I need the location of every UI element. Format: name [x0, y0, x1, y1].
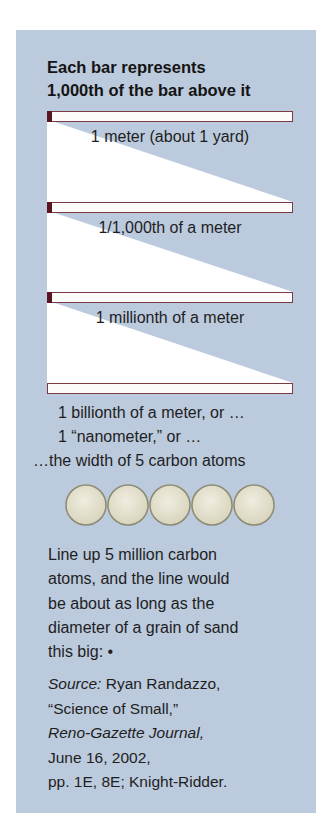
carbon-atom-icon — [108, 485, 148, 525]
nanometer-line-2: 1 “nanometer,” or … — [58, 427, 201, 447]
nanometer-line-3: …the width of 5 carbon atoms — [33, 451, 246, 471]
paragraph-line: diameter of a grain of sand — [48, 616, 308, 640]
bar-1 — [47, 111, 293, 122]
bar-2-label: 1/1,000th of a meter — [47, 218, 293, 238]
bar-3 — [47, 292, 293, 303]
source-publication: Reno-Gazette Journal, — [48, 721, 308, 746]
source-pages: pp. 1E, 8E; Knight-Ridder. — [48, 770, 308, 795]
bar-1-label: 1 meter (about 1 yard) — [47, 127, 293, 147]
carbon-atom-icon — [66, 485, 106, 525]
paragraph-line: atoms, and the line would — [48, 567, 308, 591]
carbon-atom-icon — [234, 485, 274, 525]
bar-2 — [47, 202, 293, 213]
bar-marker — [47, 202, 52, 213]
paragraph-line: this big: • — [48, 640, 308, 664]
source-author: Ryan Randazzo, — [101, 675, 220, 692]
carbon-atom-icon — [150, 485, 190, 525]
bar-marker — [47, 292, 52, 303]
paragraph-line: be about as long as the — [48, 592, 308, 616]
bar-3-label: 1 millionth of a meter — [47, 308, 293, 328]
bar-4 — [48, 384, 293, 394]
nanometer-line-1: 1 billionth of a meter, or … — [58, 403, 245, 423]
source-citation: Source: Ryan Randazzo, “Science of Small… — [48, 672, 308, 795]
source-label: Source: — [48, 675, 101, 692]
sand-grain-paragraph: Line up 5 million carbon atoms, and the … — [48, 543, 308, 664]
source-article: “Science of Small,” — [48, 697, 308, 722]
carbon-atom-icon — [192, 485, 232, 525]
carbon-atoms-row — [66, 485, 274, 525]
bar-marker — [47, 111, 52, 122]
source-date: June 16, 2002, — [48, 746, 308, 771]
paragraph-line: Line up 5 million carbon — [48, 543, 308, 567]
